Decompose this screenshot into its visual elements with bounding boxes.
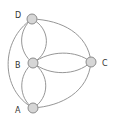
node-label-b: B bbox=[15, 61, 21, 70]
edge-b-a-right bbox=[33, 63, 46, 108]
graph-diagram: D B C A bbox=[0, 0, 117, 125]
node-label-c: C bbox=[102, 59, 108, 68]
edge-b-c-upper bbox=[33, 53, 91, 63]
node-b bbox=[28, 58, 38, 68]
edge-a-c bbox=[33, 62, 91, 108]
node-label-d: D bbox=[15, 11, 21, 20]
node-d bbox=[27, 14, 37, 24]
node-label-a: A bbox=[15, 106, 21, 115]
node-a bbox=[28, 103, 38, 113]
node-c bbox=[86, 57, 96, 67]
